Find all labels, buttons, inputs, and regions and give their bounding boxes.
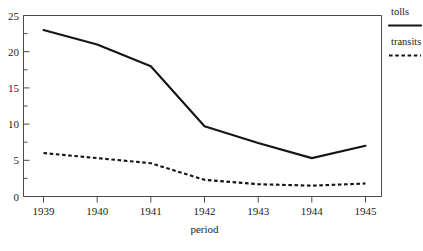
x-label-1943: 1943 [247, 205, 270, 217]
series-line-tolls [44, 30, 366, 158]
x-label-1945: 1945 [355, 205, 378, 217]
x-label-1939: 1939 [33, 205, 56, 217]
y-label-20: 20 [8, 46, 20, 58]
x-label-1944: 1944 [301, 205, 324, 217]
y-label-25: 25 [8, 10, 20, 22]
y-label-0: 0 [14, 191, 20, 203]
x-axis-ticks [44, 197, 366, 203]
x-label-1942: 1942 [194, 205, 216, 217]
line-chart-canvas: 25 20 15 10 5 0 1939 1940 1941 1942 1943… [0, 0, 423, 251]
y-label-10: 10 [8, 118, 20, 130]
chart-legend: tolls transits [389, 6, 421, 56]
y-label-15: 15 [8, 82, 20, 94]
legend-label-transits: transits [391, 36, 421, 47]
x-axis-title: period [190, 223, 219, 235]
y-axis-tick-labels: 25 20 15 10 5 0 [8, 10, 20, 203]
x-label-1941: 1941 [140, 205, 162, 217]
x-axis-tick-labels: 1939 1940 1941 1942 1943 1944 1945 [33, 205, 378, 217]
legend-label-tolls: tolls [391, 6, 409, 17]
chart-figure: 25 20 15 10 5 0 1939 1940 1941 1942 1943… [0, 0, 423, 251]
x-label-1940: 1940 [86, 205, 109, 217]
y-label-5: 5 [14, 154, 20, 166]
plot-frame [24, 16, 382, 197]
y-axis-minor-ticks [24, 34, 28, 179]
